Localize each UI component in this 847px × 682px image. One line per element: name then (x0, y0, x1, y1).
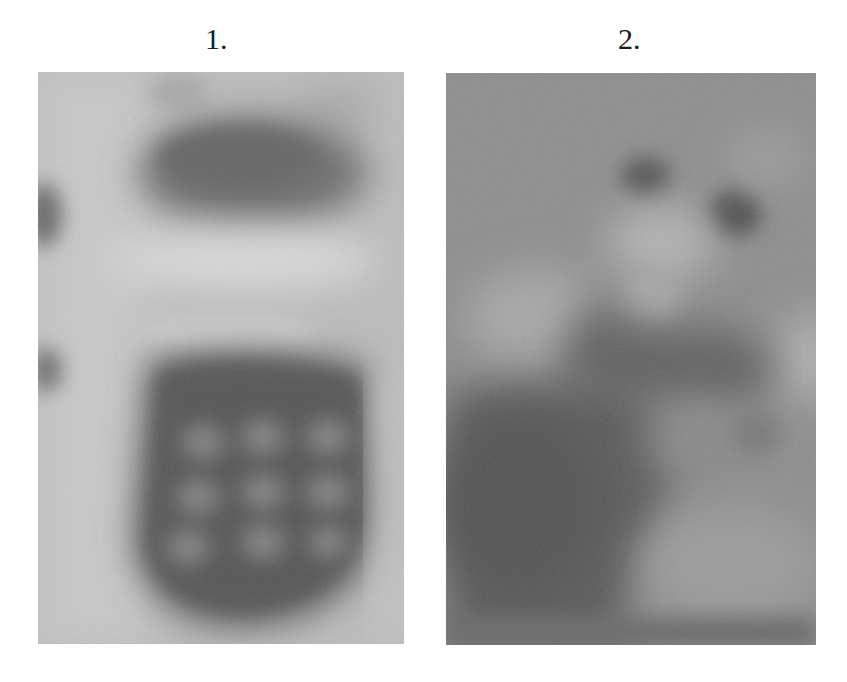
blurred-image-1-graphic (38, 72, 404, 644)
panel-label-1: 1. (205, 24, 228, 54)
blurred-image-1 (38, 72, 404, 644)
blurred-image-2 (446, 73, 816, 645)
panel-label-2: 2. (618, 24, 641, 54)
blurred-image-2-graphic (446, 73, 816, 645)
